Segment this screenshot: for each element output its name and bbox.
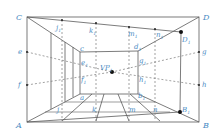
label-f: f bbox=[17, 81, 22, 89]
floor-line-j bbox=[62, 94, 92, 121]
label-f1: f1 bbox=[80, 76, 86, 85]
edge-D-d1 bbox=[138, 17, 199, 51]
label-VP: VP1 bbox=[100, 64, 113, 73]
label-e1: e1 bbox=[81, 59, 88, 68]
label-B: B bbox=[202, 121, 209, 130]
dashed-g-VP bbox=[112, 52, 199, 72]
label-d1: d1 bbox=[134, 43, 141, 52]
outer-frame bbox=[27, 17, 199, 122]
label-B1: B1 bbox=[181, 106, 190, 115]
dashed-f-VP bbox=[27, 72, 112, 85]
label-n1: n1 bbox=[156, 31, 163, 40]
point-h bbox=[198, 84, 200, 86]
diagram-svg: C D A B D1 B1 e f g h j1 k1 m1 n1 c d1 e… bbox=[0, 0, 221, 139]
label-b1: b1 bbox=[138, 92, 145, 101]
dashed-h-VP bbox=[112, 72, 199, 85]
edge-A-a bbox=[27, 94, 80, 122]
solid-lines bbox=[27, 17, 199, 122]
label-h: h bbox=[202, 81, 207, 89]
label-C: C bbox=[16, 13, 22, 22]
floor-line-m bbox=[118, 94, 129, 121]
label-h1: h1 bbox=[139, 76, 146, 85]
label-g: g bbox=[202, 48, 207, 56]
line-D1-B1 bbox=[180, 32, 181, 112]
label-a: a bbox=[80, 94, 84, 102]
point-D1 bbox=[179, 30, 183, 34]
line-C-D1 bbox=[27, 17, 181, 32]
label-k1: k1 bbox=[89, 27, 96, 36]
label-m: m bbox=[129, 106, 136, 114]
point-n1 bbox=[154, 28, 156, 30]
label-c: c bbox=[80, 45, 84, 53]
point-f bbox=[26, 84, 28, 86]
label-e: e bbox=[18, 48, 22, 56]
label-k: k bbox=[92, 106, 96, 114]
label-m1: m1 bbox=[128, 30, 138, 39]
point-e bbox=[26, 51, 28, 53]
label-D: D bbox=[202, 13, 210, 22]
label-D1: D1 bbox=[181, 36, 191, 45]
perspective-diagram: C D A B D1 B1 e f g h j1 k1 m1 n1 c d1 e… bbox=[0, 0, 221, 139]
point-j1 bbox=[61, 19, 63, 21]
edge-C-c bbox=[27, 17, 80, 52]
point-k1 bbox=[95, 22, 97, 24]
edge-B-b1 bbox=[138, 94, 199, 122]
label-n: n bbox=[153, 106, 158, 114]
label-A: A bbox=[15, 121, 22, 130]
label-g1: g1 bbox=[139, 57, 146, 66]
point-m1 bbox=[128, 26, 130, 28]
point-g bbox=[198, 51, 200, 53]
label-j1: j1 bbox=[54, 24, 61, 33]
